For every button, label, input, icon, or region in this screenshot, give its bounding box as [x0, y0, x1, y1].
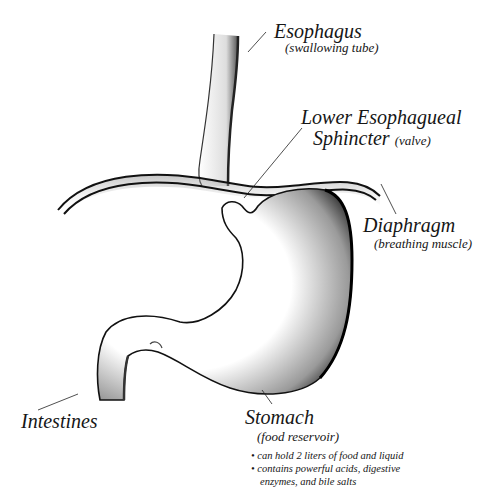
stomach-fact-1: • can hold 2 liters of food and liquid — [251, 449, 403, 462]
stomach-sublabel: (food reservoir) — [257, 429, 339, 445]
intestines-leader — [38, 394, 78, 410]
les-label-line2: Sphincter (valve) — [313, 127, 431, 150]
stomach-fact-2: • contains powerful acids, digestive — [251, 462, 400, 475]
diaphragm-sublabel: (breathing muscle) — [374, 236, 472, 252]
esophagus-sublabel: (swallowing tube) — [285, 40, 379, 56]
esophagus-leader — [248, 32, 266, 52]
les-label-line1: Lower Esophagueal — [301, 106, 462, 129]
esophagus-drawing — [199, 34, 238, 186]
stomach-fact-2-cont: enzymes, and bile salts — [260, 475, 356, 488]
les-label-sphincter: Sphincter — [313, 127, 390, 149]
stomach-label: Stomach — [245, 406, 314, 429]
stomach-drawing — [98, 189, 352, 400]
diaphragm-leader — [381, 184, 396, 214]
diaphragm-label: Diaphragm — [363, 214, 455, 237]
intestines-label: Intestines — [21, 410, 98, 433]
les-sublabel: (valve) — [395, 133, 431, 148]
